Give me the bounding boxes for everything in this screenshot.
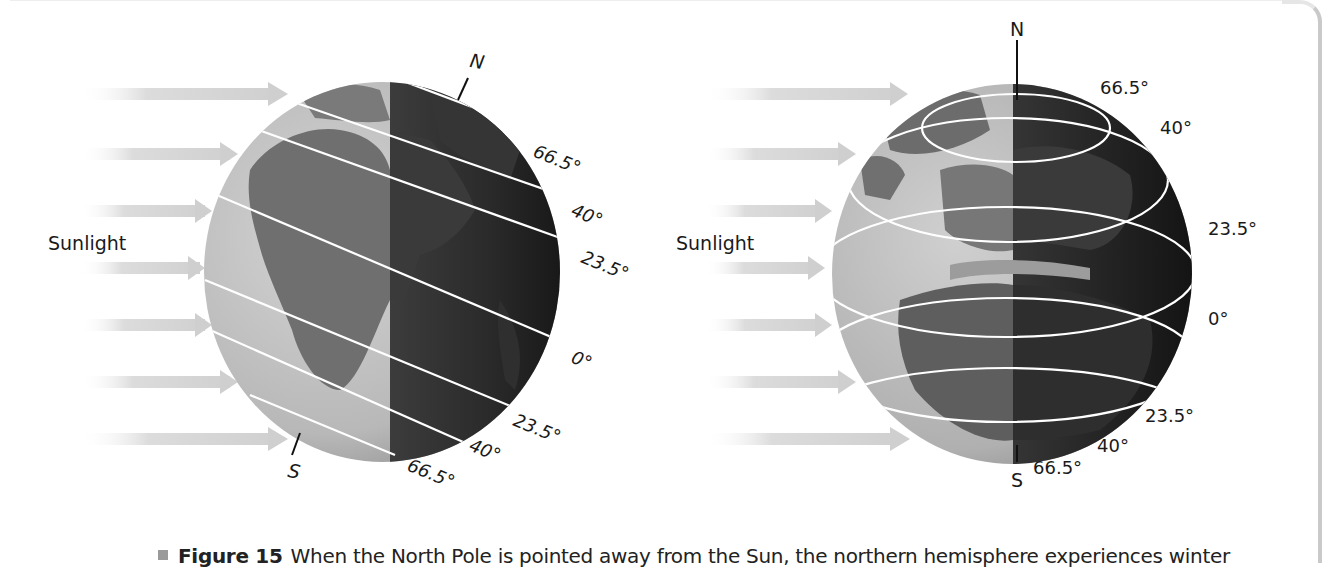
sunlight-arrow-icon bbox=[705, 370, 856, 394]
right-label-eq: 0° bbox=[1208, 308, 1228, 329]
left-label-s23: 23.5° bbox=[511, 409, 564, 447]
left-label-s66: 66.5° bbox=[405, 454, 458, 492]
sunlight-arrow-icon bbox=[705, 199, 832, 223]
right-label-s66: 66.5° bbox=[1033, 457, 1082, 478]
right-label-n23: 23.5° bbox=[1208, 218, 1257, 239]
right-label-s40: 40° bbox=[1097, 435, 1129, 456]
left-north-label: N bbox=[468, 49, 486, 73]
sunlight-arrow-icon bbox=[80, 313, 212, 337]
left-sunlight-label: Sunlight bbox=[48, 232, 126, 254]
sunlight-arrow-icon bbox=[80, 370, 238, 394]
left-label-n66: 66.5° bbox=[531, 140, 584, 178]
right-north-label: N bbox=[1010, 18, 1024, 40]
left-north-axis-tick bbox=[458, 78, 468, 100]
left-label-n23: 23.5° bbox=[579, 246, 632, 284]
right-label-s23: 23.5° bbox=[1145, 405, 1194, 426]
sunlight-arrow-icon bbox=[80, 82, 288, 106]
sunlight-arrow-icon bbox=[705, 313, 832, 337]
right-south-label: S bbox=[1011, 469, 1023, 491]
caption-bullet-icon bbox=[158, 550, 168, 560]
right-sunlight-label: Sunlight bbox=[676, 232, 754, 254]
sunlight-arrow-icon bbox=[705, 82, 908, 106]
sunlight-arrow-icon bbox=[705, 427, 910, 451]
sunlight-arrow-icon bbox=[80, 427, 288, 451]
sunlight-arrow-icon bbox=[705, 142, 856, 166]
sunlight-arrow-icon bbox=[80, 199, 212, 223]
right-label-n66: 66.5° bbox=[1100, 77, 1149, 98]
figure-caption: Figure 15When the North Pole is pointed … bbox=[158, 544, 1230, 568]
sunlight-arrow-icon bbox=[705, 256, 825, 280]
left-label-eq: 0° bbox=[569, 346, 596, 373]
left-label-s40: 40° bbox=[467, 434, 504, 465]
figure-number: Figure 15 bbox=[178, 544, 283, 568]
left-label-n40: 40° bbox=[569, 199, 606, 230]
sunlight-arrow-icon bbox=[80, 256, 205, 280]
left-south-label: S bbox=[286, 459, 302, 483]
sunlight-arrow-icon bbox=[80, 142, 238, 166]
right-label-n40: 40° bbox=[1160, 117, 1192, 138]
caption-text: When the North Pole is pointed away from… bbox=[291, 544, 1230, 568]
